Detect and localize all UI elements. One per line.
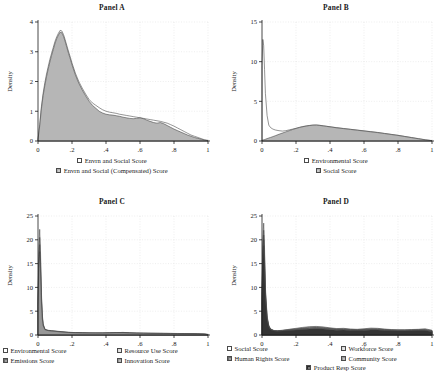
svg-text:.8: .8 [172,146,178,153]
legend-entry[interactable]: Emissions Score [3,356,107,366]
legend-row: Environmental ScoreResource Use Score [0,346,224,356]
legend-item[interactable]: Envrn and Social Score [77,156,147,166]
svg-text:15: 15 [250,18,257,25]
panel-d: Panel D 05101520250.2.4.6.81Density Soci… [224,194,448,388]
legend-swatch-icon [304,158,309,163]
legend-row: Social Score [224,166,448,176]
svg-text:5: 5 [254,308,258,315]
legend-entry[interactable]: Social Score [316,166,357,176]
svg-text:.2: .2 [294,146,299,153]
svg-text:0: 0 [30,137,34,144]
svg-text:20: 20 [250,236,257,243]
svg-text:10: 10 [250,284,257,291]
svg-text:.4: .4 [104,146,110,153]
panel-b-plot: 0510150.2.4.6.81Density [224,12,448,154]
legend-label: Social Score [323,166,356,176]
legend-entry[interactable]: Resource Use Score [117,346,221,356]
legend-row: Human Rights ScoreCommunity Score [224,354,448,364]
legend-item[interactable]: Social Score [316,166,357,176]
legend-label: Workforce Score [349,344,394,354]
svg-text:10: 10 [250,58,257,65]
panel-c: Panel C 05101520250.2.4.6.81Density Envi… [0,194,224,388]
legend-swatch-icon [3,348,8,353]
legend-row: Product Resp Score [224,363,448,373]
legend-item[interactable]: Innovation Score [117,356,170,366]
legend-row: Environmental Score [224,156,448,166]
legend-entry[interactable]: Workforce Score [341,344,445,354]
legend-swatch-icon [117,348,122,353]
panel-a-plot: 012340.2.4.6.81Density [0,12,224,154]
svg-text:1: 1 [30,108,33,115]
legend-swatch-icon [227,346,232,351]
svg-text:1: 1 [430,146,433,153]
legend-item[interactable]: Resource Use Score [117,346,178,356]
svg-text:Density: Density [230,71,237,92]
legend-item[interactable]: Envrn and Social (Compensated) Score [56,166,168,176]
svg-text:15: 15 [250,260,257,267]
legend-label: Environmental Score [11,346,67,356]
legend-swatch-icon [56,168,61,173]
panel-b-legend: Environmental ScoreSocial Score [224,156,448,175]
legend-swatch-icon [341,356,346,361]
svg-text:Density: Density [6,71,13,92]
legend-label: Innovation Score [125,356,170,366]
legend-label: Envrn and Social (Compensated) Score [64,166,168,176]
legend-label: Resource Use Score [125,346,178,356]
svg-text:4: 4 [30,18,34,25]
panel-d-legend: Social ScoreWorkforce ScoreHuman Rights … [224,344,448,373]
panel-c-plot: 05101520250.2.4.6.81Density [0,206,224,348]
svg-text:2: 2 [30,78,33,85]
svg-text:.6: .6 [138,146,144,153]
legend-item[interactable]: Environmental Score [304,156,367,166]
figure-density-panels: Panel A 012340.2.4.6.81Density Envrn and… [0,0,448,388]
svg-text:20: 20 [26,236,33,243]
svg-text:5: 5 [254,98,258,105]
legend-entry[interactable]: Envrn and Social (Compensated) Score [56,166,168,176]
legend-entry[interactable]: Innovation Score [117,356,221,366]
legend-swatch-icon [117,358,122,363]
svg-text:.4: .4 [328,146,334,153]
legend-entry[interactable]: Envrn and Social Score [77,156,147,166]
legend-entry[interactable]: Social Score [227,344,331,354]
svg-text:0: 0 [36,146,40,153]
legend-item[interactable]: Human Rights Score [227,354,289,364]
panel-d-plot: 05101520250.2.4.6.81Density [224,206,448,348]
legend-entry[interactable]: Product Resp Score [306,363,366,373]
legend-item[interactable]: Environmental Score [3,346,66,356]
legend-entry[interactable]: Human Rights Score [227,354,331,364]
legend-item[interactable]: Social Score [227,344,268,354]
legend-label: Envrn and Social Score [85,156,147,166]
panel-b: Panel B 0510150.2.4.6.81Density Environm… [224,0,448,194]
legend-swatch-icon [306,365,311,370]
legend-label: Product Resp Score [314,363,366,373]
svg-text:25: 25 [250,212,257,219]
legend-label: Human Rights Score [235,354,290,364]
panel-c-title: Panel C [0,197,224,206]
legend-label: Community Score [349,354,397,364]
svg-text:.2: .2 [70,146,75,153]
svg-text:Density: Density [230,265,237,286]
legend-label: Emissions Score [11,356,55,366]
svg-text:Density: Density [6,265,13,286]
legend-swatch-icon [77,158,82,163]
legend-row: Envrn and Social Score [0,156,224,166]
legend-entry[interactable]: Environmental Score [304,156,367,166]
legend-swatch-icon [3,358,8,363]
legend-entry[interactable]: Community Score [341,354,445,364]
svg-text:1: 1 [206,146,209,153]
svg-text:25: 25 [26,212,33,219]
svg-text:5: 5 [30,308,34,315]
legend-row: Envrn and Social (Compensated) Score [0,166,224,176]
legend-item[interactable]: Community Score [341,354,397,364]
svg-text:10: 10 [26,284,33,291]
legend-item[interactable]: Product Resp Score [306,363,366,373]
legend-item[interactable]: Workforce Score [341,344,393,354]
legend-swatch-icon [227,356,232,361]
svg-text:0: 0 [260,146,264,153]
svg-text:15: 15 [26,260,33,267]
svg-text:.6: .6 [362,146,368,153]
panel-a-legend: Envrn and Social ScoreEnvrn and Social (… [0,156,224,175]
legend-item[interactable]: Emissions Score [3,356,54,366]
legend-entry[interactable]: Environmental Score [3,346,107,356]
legend-swatch-icon [316,168,321,173]
